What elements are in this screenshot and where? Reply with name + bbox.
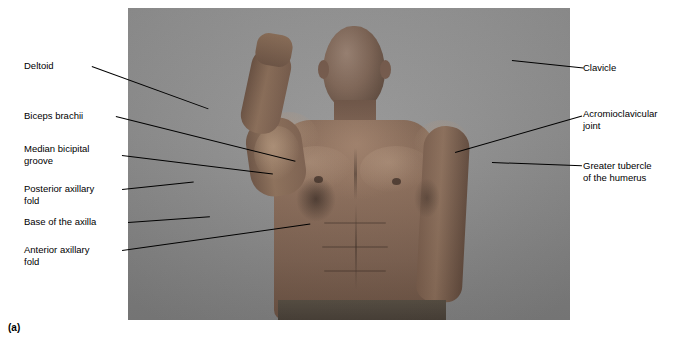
label-clavicle: Clavicle — [583, 62, 616, 74]
label-greater-tubercle-of-the-humerus: Greater tubercle of the humerus — [583, 160, 652, 183]
anatomy-figure: Deltoid Biceps brachii Median bicipital … — [0, 0, 691, 342]
label-median-bicipital-groove: Median bicipital groove — [24, 143, 89, 166]
label-acromioclavicular-joint: Acromioclavicular joint — [583, 108, 657, 131]
label-base-of-the-axilla: Base of the axilla — [24, 216, 96, 228]
label-anterior-axillary-fold: Anterior axillary fold — [24, 244, 89, 267]
label-posterior-axillary-fold: Posterior axillary fold — [24, 183, 94, 206]
label-biceps-brachii: Biceps brachii — [24, 110, 83, 122]
label-deltoid: Deltoid — [24, 60, 54, 72]
figure-letter: (a) — [8, 322, 20, 333]
